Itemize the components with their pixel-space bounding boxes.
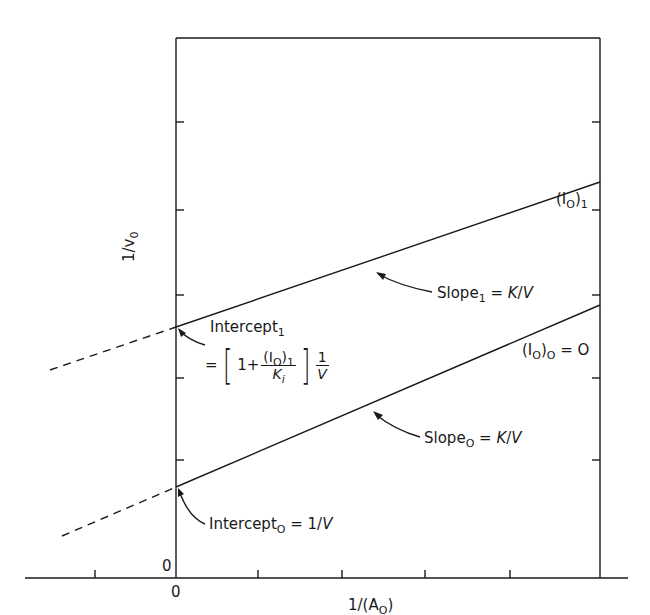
series-1-label: (IO)1 [556,192,588,207]
series-0-label-close: ) [541,341,547,359]
series-1-dashed-extension [50,327,176,370]
slope0-label-k: K [496,429,506,447]
series-1-label-sub1: O [566,198,575,211]
intercept1-title-main: Intercept [210,318,278,336]
intercept1-inhibitor-fraction: (IO)1 Ki [261,350,296,381]
slope1-leader [378,274,432,292]
one-over-v-num: 1 [316,350,329,366]
intercept1-one-over-v: 1 V [316,350,329,381]
intercept1-equation: = [ 1+ (IO)1 Ki ] 1 V [205,345,329,385]
intercept0-eq: = 1/ [285,515,322,533]
series-0-label-eq: = O [555,341,589,359]
one-over-v-den: V [317,366,327,381]
x-axis-label-close: ) [387,596,393,614]
y-ticks-right [592,122,600,460]
intercept1-eq-sign: = [205,358,218,373]
series-1-label-sub2: 1 [581,198,588,211]
slope1-label-main: Slope [437,284,479,302]
origin-y-label: 0 [162,559,172,574]
slope0-label: SlopeO = K/V [424,431,522,446]
y-axis-label: 1/v0 [122,232,137,262]
slope0-label-eq: = [474,429,496,447]
den-sub: i [282,373,285,386]
slope1-label: Slope1 = K/V [437,286,533,301]
intercept0-v: V [322,515,332,533]
y-ticks-left [176,122,184,460]
x-axis-label: 1/(AO) [348,598,393,613]
intercept1-one-plus: 1+ [237,358,259,373]
left-bracket-icon: [ [223,345,232,385]
intercept0-label: InterceptO = 1/V [209,517,332,532]
origin-x-label: 0 [171,585,181,600]
intercept0-main: Intercept [209,515,277,533]
series-0-label-sub2: O [547,349,556,362]
series-1-label-open: (I [556,190,566,208]
intercept1-title-sub: 1 [278,326,285,339]
slope1-label-k: K [508,284,518,302]
slope0-label-sub: O [466,437,475,450]
slope0-label-main: Slope [424,429,466,447]
slope1-arrowhead [376,272,386,280]
series-0-dashed-extension [62,487,176,536]
y-axis-label-sub: 0 [128,232,141,239]
series-0-label-sub1: O [532,349,541,362]
num-sub2: 1 [287,356,294,369]
intercept0-leader [179,490,205,524]
slope0-leader [375,414,420,437]
x-axis-label-sub: O [379,604,388,615]
right-bracket-icon: ] [301,345,310,385]
x-ticks [95,570,510,578]
series-0-label-open: (I [522,341,532,359]
slope1-label-sub: 1 [479,292,486,305]
fraction-numerator: (IO)1 [261,350,296,366]
series-1-label-close: ) [575,190,581,208]
slope1-label-v: V [523,284,533,302]
y-axis-label-main: 1/v [120,239,138,262]
x-axis-label-main: 1/(A [348,596,379,614]
slope0-label-v: V [511,429,521,447]
intercept0-sub: O [277,523,286,536]
intercept1-title: Intercept1 [210,320,285,335]
series-1-line [176,182,600,327]
series-0-label: (IO)O = O [522,343,589,358]
slope1-label-eq: = [486,284,508,302]
num-sub: O [273,356,282,369]
num-open: (I [263,349,273,365]
